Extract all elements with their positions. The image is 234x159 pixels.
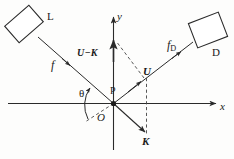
laser-source-box	[5, 5, 44, 43]
origin-label: O	[97, 112, 105, 123]
scattering-geometry-figure: L D f fD y x U−K U K P O θ	[0, 0, 234, 159]
incident-beam-ray	[38, 37, 114, 104]
u-vector-label: U	[143, 66, 151, 77]
u-minus-k-vector-label: U−K	[77, 48, 98, 58]
u-vector-arrowhead	[128, 82, 141, 93]
detected-frequency-label: fD	[167, 39, 176, 53]
k-wavevector-arrow	[114, 104, 146, 133]
incident-frequency-label: f	[51, 59, 54, 71]
x-axis-label: x	[220, 101, 225, 112]
scattering-point-dot	[111, 101, 116, 106]
detected-frequency-subscript: D	[170, 44, 176, 53]
figure-canvas	[0, 0, 234, 159]
theta-angle-label: θ	[79, 88, 84, 99]
detector-box-label: D	[212, 47, 220, 58]
scattering-point-label: P	[110, 86, 116, 96]
scattered-beam-ray	[114, 42, 194, 104]
laser-box-label: L	[47, 11, 54, 22]
y-axis-label: y	[117, 11, 122, 22]
k-vector-label: K	[142, 136, 149, 147]
detector-box	[188, 12, 227, 48]
